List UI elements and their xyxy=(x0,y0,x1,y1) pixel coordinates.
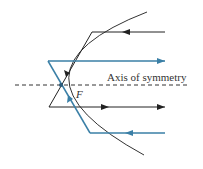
black-outgoing-arrow-icon-1 xyxy=(101,104,109,110)
axis-label: Axis of symmetry xyxy=(107,71,187,83)
focus-point xyxy=(59,83,63,87)
focus-label: F xyxy=(75,88,83,100)
parabola-reflector-diagram: Axis of symmetry F xyxy=(0,0,203,169)
black-reflected-ray xyxy=(49,32,92,107)
black-incoming-arrow-icon xyxy=(122,29,130,35)
blue-outgoing-arrow-icon xyxy=(157,58,165,64)
black-outgoing-arrow-icon-2 xyxy=(157,104,165,110)
blue-incoming-arrow-icon xyxy=(125,130,133,136)
